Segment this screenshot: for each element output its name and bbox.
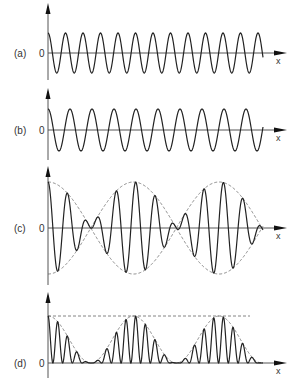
upper-envelope	[48, 182, 263, 228]
x-axis-arrow-icon	[274, 128, 287, 133]
panel-label: (b)	[14, 125, 26, 136]
x-axis-label: x	[276, 133, 281, 143]
y-axis-arrow-icon	[46, 166, 51, 177]
panel-label: (a)	[14, 48, 26, 59]
x-axis-arrow-icon	[274, 51, 287, 56]
zero-label: 0	[39, 358, 45, 369]
panel-b: (b)0x	[14, 88, 287, 160]
beats-diagram: (a)0x(b)0x(c)0x(d)0x	[0, 0, 299, 386]
panel-label: (d)	[14, 358, 26, 369]
zero-label: 0	[39, 125, 45, 136]
x-axis-label: x	[276, 56, 281, 66]
x-axis-label: x	[276, 231, 281, 241]
x-axis-label: x	[276, 366, 281, 376]
y-axis-arrow-icon	[46, 292, 51, 303]
x-axis-arrow-icon	[274, 361, 287, 366]
panel-c: (c)0x	[14, 166, 287, 285]
panel-a: (a)0x	[14, 3, 287, 80]
panel-label: (c)	[14, 223, 26, 234]
zero-label: 0	[39, 48, 45, 59]
y-axis-arrow-icon	[46, 88, 51, 99]
panel-d: (d)0x	[14, 292, 287, 378]
zero-label: 0	[39, 223, 45, 234]
y-axis-arrow-icon	[46, 3, 51, 14]
x-axis-arrow-icon	[274, 226, 287, 231]
